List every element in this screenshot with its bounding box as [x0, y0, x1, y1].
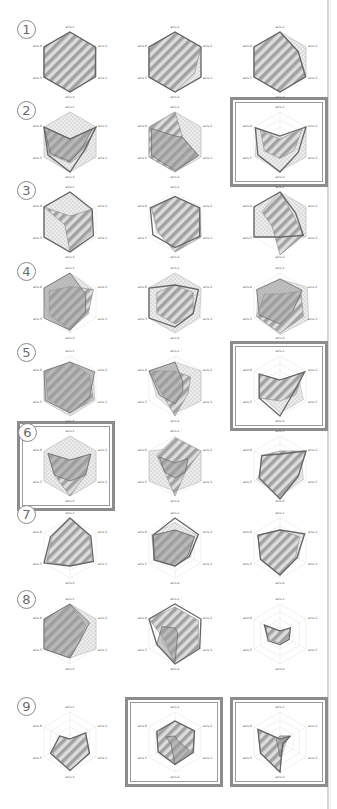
axis-label: axis-2: [308, 204, 317, 208]
axis-label: axis-4: [170, 775, 179, 779]
axis-label: axis-2: [203, 285, 212, 289]
axis-label: axis-5: [33, 756, 42, 760]
axis-label: axis-5: [33, 562, 42, 566]
axis-label: axis-5: [138, 562, 147, 566]
axis-label: axis-1: [170, 25, 179, 29]
axis-label: axis-5: [243, 156, 252, 160]
radar-chart-r8c2: axis-1axis-2axis-3axis-4axis-5axis-6: [138, 597, 212, 671]
axis-label: axis-6: [138, 124, 147, 128]
axis-label: axis-2: [98, 124, 107, 128]
axis-label: axis-5: [138, 648, 147, 652]
row-number-6: 6: [18, 423, 37, 442]
axis-label: axis-6: [138, 724, 147, 728]
radar-chart-r1c3: axis-1axis-2axis-3axis-4axis-5axis-6: [243, 25, 317, 99]
series-striped: [149, 32, 201, 92]
axis-label: axis-4: [65, 419, 74, 423]
axis-label: axis-3: [203, 480, 212, 484]
axis-label: axis-6: [243, 530, 252, 534]
axis-label: axis-5: [33, 156, 42, 160]
axis-label: axis-1: [65, 105, 74, 109]
axis-label: axis-6: [243, 285, 252, 289]
axis-label: axis-6: [243, 616, 252, 620]
axis-label: axis-1: [170, 266, 179, 270]
axis-label: axis-1: [275, 105, 284, 109]
axis-label: axis-6: [33, 44, 42, 48]
axis-label: axis-6: [33, 368, 42, 372]
axis-label: axis-2: [98, 616, 107, 620]
axis-label: axis-3: [308, 156, 317, 160]
axis-label: axis-2: [308, 448, 317, 452]
axis-label: axis-5: [33, 317, 42, 321]
axis-label: axis-2: [98, 724, 107, 728]
axis-label: axis-1: [65, 349, 74, 353]
axis-label: axis-4: [275, 499, 284, 503]
axis-label: axis-4: [170, 336, 179, 340]
axis-label: axis-4: [275, 775, 284, 779]
axis-label: axis-2: [98, 44, 107, 48]
radar-chart-r3c3: axis-1axis-2axis-3axis-4axis-5axis-6: [243, 185, 317, 259]
radar-chart-r5c3: axis-1axis-2axis-3axis-4axis-5axis-6: [243, 349, 317, 423]
axis-label: axis-5: [243, 562, 252, 566]
series-filled: [153, 530, 195, 566]
axis-label: axis-4: [170, 499, 179, 503]
radar-chart-r7c3: axis-1axis-2axis-3axis-4axis-5axis-6: [243, 511, 317, 585]
axis-label: axis-3: [308, 236, 317, 240]
axis-label: axis-2: [308, 44, 317, 48]
axis-label: axis-4: [65, 255, 74, 259]
axis-label: axis-3: [98, 648, 107, 652]
axis-label: axis-6: [138, 204, 147, 208]
axis-label: axis-2: [308, 368, 317, 372]
axis-label: axis-2: [98, 530, 107, 534]
radar-chart-r4c2: axis-1axis-2axis-3axis-4axis-5axis-6: [138, 266, 212, 340]
axis-label: axis-1: [275, 266, 284, 270]
axis-label: axis-5: [33, 480, 42, 484]
axis-label: axis-4: [65, 175, 74, 179]
axis-label: axis-1: [65, 266, 74, 270]
axis-label: axis-4: [170, 95, 179, 99]
axis-label: axis-1: [170, 105, 179, 109]
axis-label: axis-1: [275, 511, 284, 515]
axis-label: axis-2: [98, 368, 107, 372]
row-number-4: 4: [17, 262, 36, 281]
axis-label: axis-4: [275, 581, 284, 585]
axis-label: axis-4: [65, 775, 74, 779]
axis-label: axis-2: [308, 285, 317, 289]
axis-label: axis-4: [170, 175, 179, 179]
radar-chart-r4c1: axis-1axis-2axis-3axis-4axis-5axis-6: [33, 266, 107, 340]
axis-label: axis-2: [98, 285, 107, 289]
axis-label: axis-2: [308, 616, 317, 620]
axis-label: axis-1: [65, 429, 74, 433]
axis-label: axis-3: [308, 480, 317, 484]
radar-chart-r9c2: axis-1axis-2axis-3axis-4axis-5axis-6: [138, 705, 212, 779]
axis-label: axis-4: [170, 581, 179, 585]
axis-label: axis-5: [138, 756, 147, 760]
axis-label: axis-6: [243, 368, 252, 372]
axis-label: axis-3: [98, 480, 107, 484]
row-number-3: 3: [17, 181, 36, 200]
axis-label: axis-4: [65, 581, 74, 585]
radar-chart-r9c3: axis-1axis-2axis-3axis-4axis-5axis-6: [243, 705, 317, 779]
axis-label: axis-6: [243, 724, 252, 728]
radar-chart-r7c1: axis-1axis-2axis-3axis-4axis-5axis-6: [33, 511, 107, 585]
axis-label: axis-3: [308, 76, 317, 80]
axis-label: axis-3: [98, 756, 107, 760]
axis-label: axis-6: [243, 448, 252, 452]
axis-label: axis-5: [243, 648, 252, 652]
row-number-8: 8: [17, 590, 36, 609]
axis-label: axis-3: [98, 236, 107, 240]
axis-label: axis-1: [275, 597, 284, 601]
axis-label: axis-5: [243, 400, 252, 404]
axis-label: axis-3: [98, 156, 107, 160]
axis-label: axis-5: [33, 236, 42, 240]
radar-chart-r6c2: axis-1axis-2axis-3axis-4axis-5axis-6: [138, 429, 212, 503]
axis-label: axis-6: [243, 44, 252, 48]
series-striped: [258, 530, 300, 575]
axis-label: axis-3: [308, 562, 317, 566]
radar-chart-r3c2: axis-1axis-2axis-3axis-4axis-5axis-6: [138, 185, 212, 259]
series-striped: [44, 32, 96, 92]
axis-label: axis-2: [98, 448, 107, 452]
axis-label: axis-2: [203, 44, 212, 48]
axis-label: axis-2: [308, 124, 317, 128]
axis-label: axis-3: [98, 562, 107, 566]
axis-label: axis-1: [170, 429, 179, 433]
